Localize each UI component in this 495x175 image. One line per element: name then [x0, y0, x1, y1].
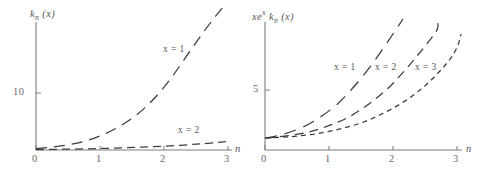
x-tick-label-right-1: 1 [325, 153, 331, 164]
curve-right-x3 [265, 34, 461, 138]
x-tick-label-left-0: 0 [32, 153, 38, 164]
series-label-left-x2: x = 2 [178, 125, 200, 135]
x-tick-label-right-0: 0 [261, 153, 267, 164]
plot-left-svg [0, 0, 247, 175]
y-axis-label-left: kn (x) [30, 8, 55, 22]
plot-panel-right: xex kn (x) 5 0 1 2 3 n x = 1 x = 2 x = 3 [247, 0, 495, 175]
plot-panel-left: kn (x) 10 0 1 2 3 n x = 1 x = 2 [0, 0, 247, 175]
series-label-right-x3: x = 3 [415, 62, 437, 72]
x-axis-label-right: n [466, 143, 472, 154]
x-tick-label-left-3: 3 [224, 153, 230, 164]
y-tick-label-right-5: 5 [253, 83, 259, 94]
series-label-right-x1: x = 1 [334, 62, 356, 72]
two-panel-figure: kn (x) 10 0 1 2 3 n x = 1 x = 2 [0, 0, 495, 175]
x-axis-label-left: n [235, 143, 241, 154]
x-tick-label-right-3: 3 [453, 153, 459, 164]
curve-right-x1 [265, 19, 403, 138]
series-label-left-x1: x = 1 [163, 44, 185, 54]
x-tick-label-left-1: 1 [96, 153, 102, 164]
series-label-right-x2: x = 2 [375, 62, 397, 72]
x-tick-label-left-2: 2 [160, 153, 166, 164]
curve-right-x2 [265, 19, 438, 139]
x-tick-label-right-2: 2 [389, 153, 395, 164]
y-tick-label-left-10: 10 [13, 86, 24, 97]
plot-right-svg [247, 0, 495, 175]
curve-left-x2 [36, 141, 228, 149]
y-axis-label-right: xex kn (x) [252, 8, 294, 25]
